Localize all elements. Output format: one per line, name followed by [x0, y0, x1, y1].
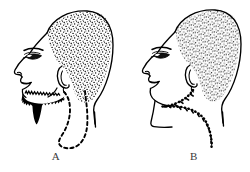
figure-a [14, 11, 113, 148]
beaded-path-ticks-b [168, 94, 211, 143]
figure-label-b: B [184, 151, 204, 162]
jaw-outline-b [150, 89, 173, 106]
eyebrow-a [24, 48, 43, 50]
mouth-line-a [22, 82, 32, 83]
stippled-hair-region-b [176, 11, 240, 102]
illustration-canvas [0, 0, 250, 172]
figure-plate: A B [0, 0, 250, 172]
figure-b [142, 10, 241, 147]
mouth-line-b [150, 81, 160, 82]
nose-b [142, 57, 152, 76]
stippled-hair-region-a [48, 12, 112, 103]
beaded-path-guide-b [162, 90, 193, 107]
nose-a [14, 58, 24, 77]
neck-back-a [95, 112, 96, 127]
eyebrow-b [152, 47, 171, 49]
solid-black-beard-a [21, 91, 64, 125]
neck-back-b [223, 112, 224, 126]
figure-label-a: A [46, 151, 66, 162]
